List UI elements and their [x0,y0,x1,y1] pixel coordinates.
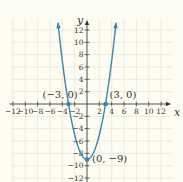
x-tick-label: −8 [32,107,43,116]
key-point-marker [85,157,90,162]
y-tick-label: 10 [74,38,84,47]
x-tick-label: −10 [17,107,33,116]
key-point-label: (3, 0) [110,89,137,100]
key-point-marker [66,102,71,107]
key-point-label: (−3, 0) [42,89,77,100]
x-tick-label: 4 [109,107,114,116]
y-axis-label: y [76,14,84,27]
x-tick-label: 12 [156,107,166,116]
x-tick-label: 8 [134,107,139,116]
x-axis-label: x [174,106,181,119]
parabola-chart: −12−10−8−6−4−224681012−12−10−8−6−4−22468… [0,0,183,182]
y-tick-label: 6 [79,63,84,72]
x-tick-label: 10 [144,107,154,116]
x-tick-label: 6 [122,107,127,116]
y-tick-label: −6 [72,137,83,146]
y-tick-label: 8 [79,50,84,59]
x-tick-label: 2 [97,107,102,116]
key-point-marker [103,102,108,107]
y-tick-label: 4 [79,75,84,84]
y-tick-label: 2 [79,87,84,96]
y-tick-label: −12 [68,174,84,182]
x-tick-label: −4 [57,107,68,116]
y-tick-label: −10 [68,161,84,170]
x-tick-label: −6 [44,107,55,116]
y-tick-label: −2 [72,112,83,121]
key-point-label: (0, −9) [92,153,127,164]
